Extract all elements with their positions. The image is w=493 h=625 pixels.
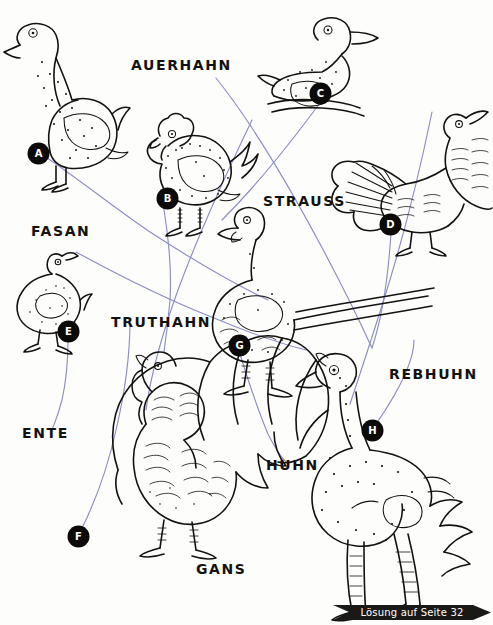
badge-h[interactable]: H	[363, 421, 382, 440]
bird-goose-a	[4, 24, 130, 192]
badge-f[interactable]: F	[69, 527, 88, 546]
badge-f-letter: F	[75, 531, 82, 542]
badge-c-letter: C	[317, 88, 324, 99]
answer-banner-text: Lösung auf Seite 32	[360, 607, 463, 618]
connector-f-gans	[82, 320, 130, 528]
connector-d-auerhahn	[216, 78, 391, 348]
label-fasan[interactable]: FASAN	[31, 224, 90, 238]
label-gans[interactable]: GANS	[196, 562, 247, 576]
bird-turkey-f	[113, 336, 329, 559]
badge-a-letter: A	[35, 148, 43, 159]
bird-ostrich-h	[296, 353, 472, 621]
label-truthahn[interactable]: TRUTHAHN	[111, 315, 211, 329]
label-auerhahn[interactable]: AUERHAHN	[131, 58, 232, 72]
connector-cross-2	[350, 112, 432, 404]
label-strauss[interactable]: STRAUSS	[263, 194, 346, 208]
badge-d-letter: D	[386, 219, 394, 230]
badge-b[interactable]: B	[158, 189, 177, 208]
connector-lines	[38, 78, 432, 528]
badge-e-letter: E	[65, 326, 72, 337]
label-huhn[interactable]: HUHN	[266, 458, 319, 472]
answer-banner: Lösung auf Seite 32	[333, 604, 491, 621]
badge-d[interactable]: D	[381, 215, 400, 234]
badge-g[interactable]: G	[230, 336, 249, 355]
label-ente[interactable]: ENTE	[22, 426, 69, 440]
connector-h-rebhuhn	[376, 340, 414, 424]
badge-e[interactable]: E	[59, 322, 78, 341]
badge-b-letter: B	[164, 193, 172, 204]
bird-capercaillie-d	[332, 111, 492, 256]
badge-g-letter: G	[235, 340, 243, 351]
label-rebhuhn[interactable]: REBHUHN	[389, 367, 478, 381]
badge-h-letter: H	[368, 425, 376, 436]
bird-partridge-e	[17, 253, 92, 354]
worksheet-page: .ink{fill:none;stroke:#14120f;stroke-wid…	[0, 0, 493, 625]
badge-a[interactable]: A	[29, 144, 48, 163]
bird-chicken-b	[147, 114, 258, 237]
badge-c[interactable]: C	[311, 84, 330, 103]
